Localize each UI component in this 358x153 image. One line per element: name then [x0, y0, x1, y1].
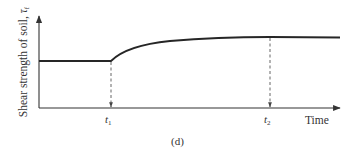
shear-strength-time-diagram — [0, 0, 358, 153]
y-axis-label-text: Shear strength of soil, — [17, 13, 29, 117]
figure-caption: (d) — [171, 136, 184, 147]
tau-symbol: τ — [17, 9, 29, 13]
t1-label: t1 — [105, 114, 112, 127]
t2-label: t2 — [264, 114, 271, 127]
y-axis-label: Shear strength of soil, τf — [18, 7, 31, 117]
x-axis-label: Time — [305, 115, 329, 127]
shear-strength-curve — [39, 37, 340, 61]
t1-subscript: 1 — [108, 119, 112, 127]
tau-subscript: f — [23, 7, 31, 9]
t2-subscript: 2 — [267, 119, 271, 127]
